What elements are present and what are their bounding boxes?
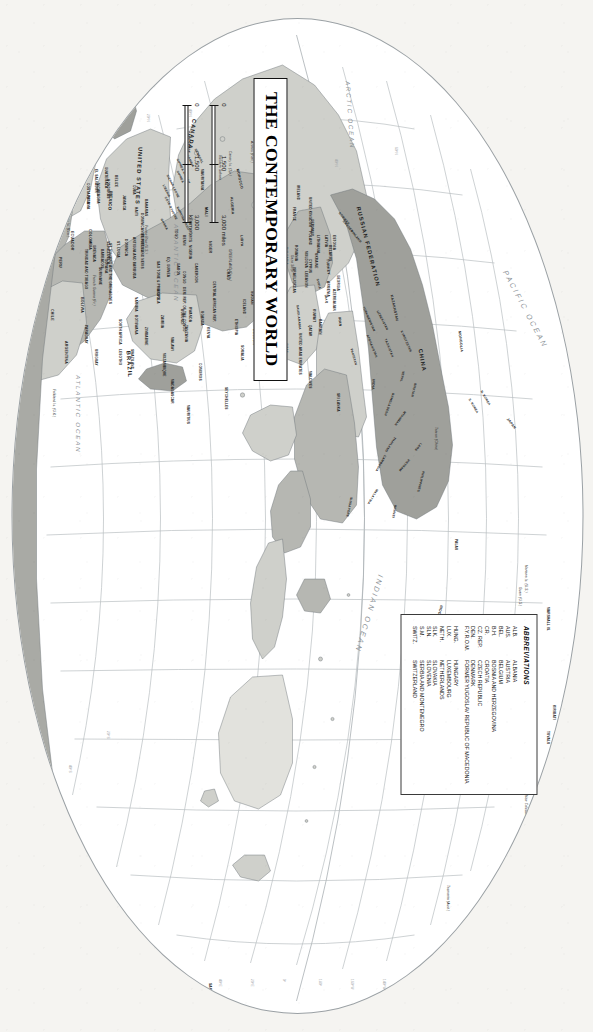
world-map-graphic: [11, 19, 582, 1014]
abbreviation-row: B.H.BOSNIA AND HERZEGOVINA: [489, 626, 496, 783]
abbreviation-value: SERBIA AND MONTENEGRO: [417, 657, 424, 783]
abbreviation-key: B.H.: [489, 626, 496, 657]
abbreviation-value: ALBANIA: [510, 657, 517, 783]
india-landmass: [242, 405, 296, 461]
map-title-box: THE CONTEMPORARY WORLD: [253, 78, 287, 381]
abbreviation-row: NETH.NETHERLANDS: [437, 626, 444, 783]
madagascar-landmass: [138, 363, 186, 391]
abbreviation-key: CZ. REP.: [475, 626, 482, 657]
abbreviation-value: SWITZERLAND: [410, 657, 417, 783]
page-title: THE CONTEMPORARY WORLD: [260, 92, 281, 367]
southern-africa-landmass: [126, 293, 202, 363]
abbreviation-key: F.Y.R.O.M.: [462, 626, 469, 657]
abbreviation-value: CROATIA: [482, 657, 489, 783]
abbreviation-value: SLOVENIA: [424, 657, 431, 783]
abbreviation-row: DEN.DENMARK: [469, 626, 476, 783]
abbreviations-heading: ABBREVIATIONS: [522, 626, 529, 783]
alaska-landmass: [96, 77, 136, 139]
abbreviation-value: HUNGARY: [451, 657, 458, 783]
abbreviation-key: NETH.: [437, 626, 444, 657]
abbreviation-value: DENMARK: [469, 657, 476, 783]
scale-miles-tick-1: 1,500: [220, 156, 226, 171]
abbreviation-row: SLK.SLOVAKIA: [431, 626, 438, 783]
abbreviation-key: SWITZ.: [410, 626, 417, 657]
abbreviation-value: CZECH REPUBLIC: [475, 657, 482, 783]
australia-landmass: [218, 675, 292, 809]
scale-km-tick-0: 0: [193, 103, 199, 106]
scale-miles-unit: 3,000 miles: [220, 215, 226, 246]
tasmania-landmass: [200, 789, 218, 807]
scale-km-unit: 3,000 kilometers: [187, 215, 199, 253]
abbreviation-key: BEL.: [496, 626, 503, 657]
map-plate: PACIFIC OCEANPACIFIC OCEANARCTIC OCEANAT…: [0, 0, 593, 1032]
abbreviation-row: BEL.BELGIUM: [496, 626, 503, 783]
abbreviation-value: NETHERLANDS: [437, 657, 444, 783]
abbreviation-value: AUSTRIA: [503, 657, 510, 783]
globe-oval: PACIFIC OCEANPACIFIC OCEANARCTIC OCEANAT…: [11, 18, 583, 1014]
abbreviation-key: SLK.: [431, 626, 438, 657]
philippines-landmass: [296, 579, 330, 613]
abbreviation-row: CZ. REP.CZECH REPUBLIC: [475, 626, 482, 783]
abbreviation-key: CR.: [482, 626, 489, 657]
abbreviation-key: AUS.: [503, 626, 510, 657]
abbreviation-row: S.M.SERBIA AND MONTENEGRO: [417, 626, 424, 783]
abbreviation-key: S.M.: [417, 626, 424, 657]
abbreviation-key: DEN.: [469, 626, 476, 657]
abbreviation-value: LUXEMBOURG: [444, 657, 451, 783]
abbreviation-key: LUX.: [444, 626, 451, 657]
abbreviation-key: ALB.: [510, 626, 517, 657]
map-page: PACIFIC OCEANPACIFIC OCEANARCTIC OCEANAT…: [0, 0, 593, 1032]
abbreviation-row: AUS.AUSTRIA: [503, 626, 510, 783]
abbreviation-value: SLOVAKIA: [431, 657, 438, 783]
abbreviation-row: LUX.LUXEMBOURG: [444, 626, 451, 783]
scale-bar: 0 1,500 3,000 miles 0 1,500 3,000 kilome…: [171, 105, 215, 253]
indonesia-landmass: [250, 539, 286, 659]
abbreviation-key: SLN.: [424, 626, 431, 657]
scale-miles-tick-0: 0: [220, 103, 226, 106]
abbreviations-table: ALB.ALBANIAAUS.AUSTRIABEL.BELGIUMB.H.BOS…: [410, 626, 517, 783]
abbreviation-row: ALB.ALBANIA: [510, 626, 517, 783]
abbreviation-value: BELGIUM: [496, 657, 503, 783]
abbreviation-value: BOSNIA AND HERZEGOVINA: [489, 657, 496, 783]
abbreviation-row: SLN.SLOVENIA: [424, 626, 431, 783]
scale-miles: 0 1,500 3,000 miles: [198, 105, 215, 253]
abbreviations-legend: ABBREVIATIONS ALB.ALBANIAAUS.AUSTRIABEL.…: [400, 614, 537, 795]
new-zealand-landmass: [232, 855, 270, 881]
scale-km-tick-1: 1,500: [193, 156, 199, 171]
abbreviation-row: SWITZ.SWITZERLAND: [410, 626, 417, 783]
abbreviation-spacer: [458, 626, 461, 783]
abbreviation-row: CR.CROATIA: [482, 626, 489, 783]
abbreviation-row: HUNG.HUNGARY: [451, 626, 458, 783]
abbreviation-key: HUNG.: [451, 626, 458, 657]
scale-kilometers: 0 1,500 3,000 kilometers: [171, 105, 188, 253]
abbreviation-row: F.Y.R.O.M.FORMER YUGOSLAV REPUBLIC OF MA…: [462, 626, 469, 783]
abbreviation-value: FORMER YUGOSLAV REPUBLIC OF MACEDONIA: [462, 657, 469, 783]
globe-interior: PACIFIC OCEANPACIFIC OCEANARCTIC OCEANAT…: [12, 19, 582, 1013]
